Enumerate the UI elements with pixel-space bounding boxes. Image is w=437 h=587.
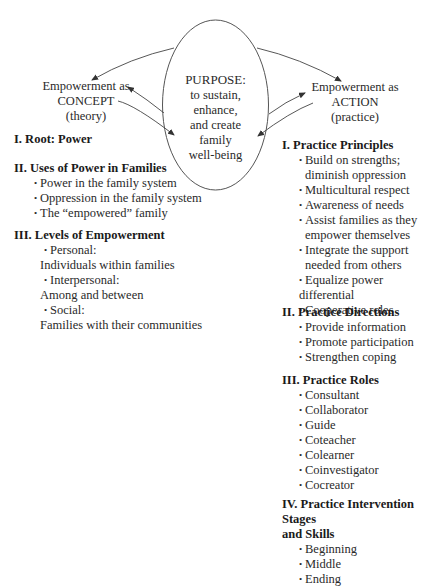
list-item-sub: Families with their communities — [40, 318, 202, 333]
action-line: ACTION — [300, 95, 410, 110]
list-item: •Multicultural respect — [299, 183, 437, 198]
list-item: •Coteacher — [299, 433, 379, 448]
list-item: •Build on strengths; — [299, 153, 437, 168]
purpose-text: PURPOSE: to sustain, enhance, and create… — [163, 72, 268, 163]
right-section-roles: III. Practice Roles •Consultant •Collabo… — [282, 373, 379, 493]
list-item-sub: Among and between — [40, 288, 202, 303]
list-item: •Consultant — [299, 388, 379, 403]
right-section-stages: IV. Practice Intervention Stages and Ski… — [282, 497, 437, 587]
purpose-line: enhance, — [163, 103, 268, 118]
list-item: •Integrate the support — [299, 243, 437, 258]
list-item-sub: Individuals within families — [40, 258, 202, 273]
purpose-line: to sustain, — [163, 88, 268, 103]
list-item: •Cocreator — [299, 478, 379, 493]
list-item: •Provide information — [299, 320, 414, 335]
list-item: •The “empowered” family — [34, 206, 202, 221]
list-item-sub: needed from others — [299, 258, 437, 273]
list-item: •Middle — [299, 557, 437, 572]
left-section-root: I. Root: Power — [14, 132, 92, 147]
list-item: •Power in the family system — [34, 176, 202, 191]
action-line: (practice) — [300, 110, 410, 125]
concept-line: CONCEPT — [30, 94, 142, 109]
section-heading: IV. Practice Intervention Stages — [282, 497, 437, 527]
list-item-sub: empower themselves — [299, 228, 437, 243]
arrow-purpose-to-concept — [92, 48, 174, 80]
list-item: •Oppression in the family system — [34, 191, 202, 206]
section-heading: II. Practice Directions — [282, 305, 414, 320]
section-heading-cont: and Skills — [282, 527, 437, 542]
section-heading: I. Root: Power — [14, 132, 92, 147]
purpose-line: family — [163, 133, 268, 148]
section-heading: I. Practice Principles — [282, 138, 437, 153]
list-item: •Collaborator — [299, 403, 379, 418]
right-section-principles: I. Practice Principles •Build on strengt… — [282, 138, 437, 318]
list-item-sub: diminish oppression — [299, 168, 437, 183]
list-item: •Interpersonal: — [44, 273, 202, 288]
section-heading: III. Levels of Empowerment — [14, 228, 202, 243]
list-item: •Personal: — [44, 243, 202, 258]
list-item: •Assist families as they — [299, 213, 437, 228]
list-item: •Strengthen coping — [299, 350, 414, 365]
section-heading: II. Uses of Power in Families — [14, 161, 202, 176]
list-item: •Awareness of needs — [299, 198, 437, 213]
list-item: •Coinvestigator — [299, 463, 379, 478]
concept-label: Empowerment as CONCEPT (theory) — [30, 79, 142, 124]
list-item: •Guide — [299, 418, 379, 433]
action-line: Empowerment as — [300, 80, 410, 95]
action-label: Empowerment as ACTION (practice) — [300, 80, 410, 125]
list-item: •Promote participation — [299, 335, 414, 350]
concept-line: (theory) — [30, 109, 142, 124]
right-section-directions: II. Practice Directions •Provide informa… — [282, 305, 414, 365]
purpose-line: and create — [163, 118, 268, 133]
list-item: •Equalize power differential — [299, 273, 437, 303]
list-item: •Beginning — [299, 542, 437, 557]
list-item: •Colearner — [299, 448, 379, 463]
list-item: •Social: — [44, 303, 202, 318]
section-heading: III. Practice Roles — [282, 373, 379, 388]
concept-line: Empowerment as — [30, 79, 142, 94]
left-section-uses-of-power: II. Uses of Power in Families •Power in … — [14, 161, 202, 221]
arrow-purpose-to-action — [257, 48, 341, 81]
list-item: •Ending — [299, 572, 437, 587]
purpose-title: PURPOSE: — [163, 72, 268, 87]
left-section-levels: III. Levels of Empowerment •Personal: In… — [14, 228, 202, 333]
